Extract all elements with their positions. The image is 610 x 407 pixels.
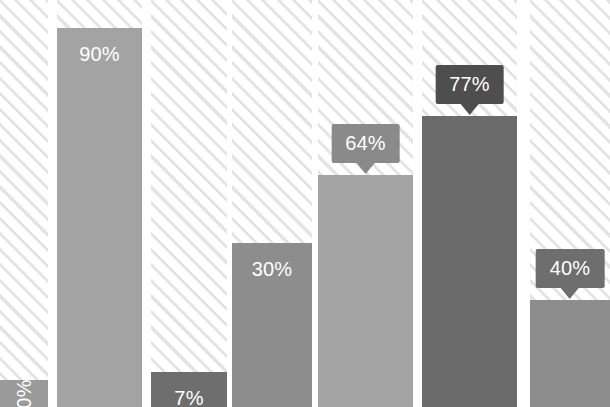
bar[interactable]: 90%	[57, 28, 142, 407]
hatched-track	[151, 0, 227, 407]
bar-column[interactable]: 30%	[232, 0, 312, 407]
bar-column[interactable]: 90%	[57, 0, 142, 407]
bar-chart: 0%90%7%30%64%77%40%	[0, 0, 610, 407]
hatched-track	[0, 0, 48, 407]
bar[interactable]: 40%	[530, 300, 610, 407]
bar[interactable]: 7%	[151, 372, 227, 407]
plot-area: 0%90%7%30%64%77%40%	[0, 0, 610, 407]
bar-column[interactable]: 40%	[530, 0, 610, 407]
value-label: 7%	[174, 388, 203, 407]
value-label: 0%	[14, 379, 34, 407]
bar-column[interactable]: 77%	[422, 0, 517, 407]
value-label: 30%	[252, 259, 293, 407]
bar-column[interactable]: 7%	[151, 0, 227, 407]
value-label: 90%	[79, 44, 120, 407]
value-callout: 77%	[435, 65, 504, 104]
value-callout: 40%	[536, 249, 605, 288]
bar-column[interactable]: 0%	[0, 0, 48, 407]
value-label: 64%	[345, 133, 386, 153]
bar[interactable]: 77%	[422, 116, 517, 407]
value-label: 40%	[550, 258, 591, 278]
bar[interactable]: 30%	[232, 243, 312, 407]
value-label: 77%	[449, 74, 490, 94]
value-callout: 64%	[331, 124, 400, 163]
bar-column[interactable]: 64%	[318, 0, 413, 407]
bar[interactable]: 64%	[318, 175, 413, 407]
bar[interactable]: 0%	[0, 380, 48, 407]
